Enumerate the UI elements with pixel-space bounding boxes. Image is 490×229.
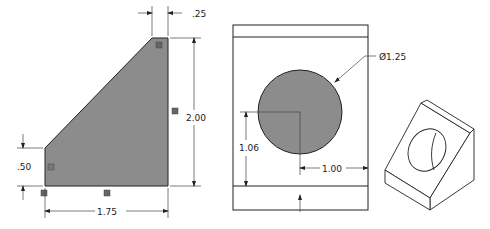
dim-hole-center-from-right: 1.00 <box>322 164 342 174</box>
relation-marker <box>172 108 178 114</box>
engineering-drawing: .25 2.00 .50 1.75 Ø1.25 <box>0 0 490 229</box>
dim-base-width: 1.75 <box>97 207 117 217</box>
side-profile-shape <box>45 38 168 186</box>
dim-height: 2.00 <box>186 113 206 123</box>
relation-marker <box>41 190 47 196</box>
dim-hole-diameter: Ø1.25 <box>379 52 406 62</box>
relation-marker <box>48 164 54 170</box>
relation-marker <box>104 190 110 196</box>
dim-hole-center-height: 1.06 <box>239 143 259 153</box>
relation-marker <box>156 42 162 48</box>
side-view: .25 2.00 .50 1.75 <box>17 6 206 218</box>
dim-lower-height: .50 <box>17 162 32 172</box>
dim-top-width: .25 <box>192 9 206 19</box>
front-view: Ø1.25 1.06 1.00 <box>233 25 406 212</box>
isometric-view <box>385 100 474 210</box>
